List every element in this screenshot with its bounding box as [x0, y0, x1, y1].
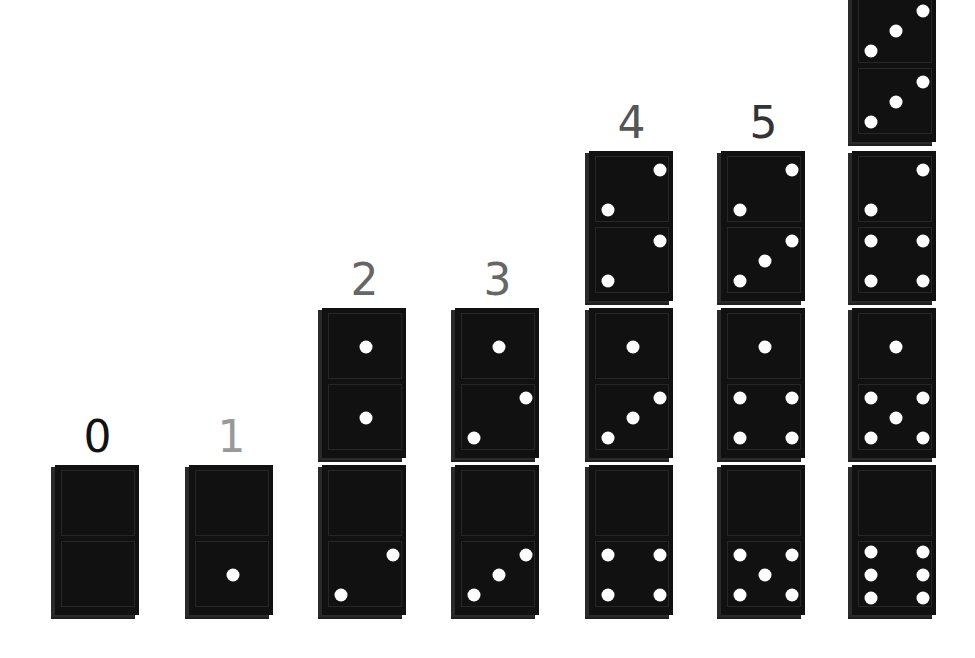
- domino-2-2: [589, 151, 673, 301]
- pip-dot: [759, 255, 772, 268]
- pip-dot: [785, 588, 798, 601]
- column-label-0: 0: [55, 415, 140, 459]
- domino-2-4: [852, 151, 936, 301]
- pip-dot: [601, 203, 614, 216]
- pip-dot: [759, 569, 772, 582]
- pip-dot: [864, 392, 877, 405]
- domino-half-top-blank: [195, 470, 269, 536]
- domino-half-bottom-blank: [61, 541, 135, 607]
- domino-half-bottom-two: [328, 541, 402, 607]
- pip-dot: [493, 341, 506, 354]
- domino-half-bottom-two: [461, 384, 535, 450]
- pip-dot: [785, 235, 798, 248]
- domino-half-bottom-four: [727, 384, 801, 450]
- pip-dot: [890, 341, 903, 354]
- pip-dot: [916, 545, 929, 558]
- pip-dot: [890, 412, 903, 425]
- domino-half-top-one: [595, 313, 669, 379]
- pip-dot: [360, 341, 373, 354]
- pip-dot: [733, 274, 746, 287]
- domino-1-4: [721, 308, 805, 458]
- pip-dot: [360, 412, 373, 425]
- domino-half-top-blank: [595, 470, 669, 536]
- pip-dot: [653, 549, 666, 562]
- pip-dot: [601, 588, 614, 601]
- pip-dot: [627, 412, 640, 425]
- pip-dot: [864, 203, 877, 216]
- pip-dot: [864, 115, 877, 128]
- pip-dot: [601, 431, 614, 444]
- column-label-3: 3: [455, 258, 540, 302]
- domino-0-2: [322, 465, 406, 615]
- pip-dot: [785, 164, 798, 177]
- domino-0-0: [55, 465, 139, 615]
- column-label-2: 2: [322, 258, 407, 302]
- domino-half-bottom-four: [858, 227, 932, 293]
- column-label-5: 5: [721, 101, 806, 145]
- domino-half-bottom-six: [858, 541, 932, 607]
- pip-dot: [653, 588, 666, 601]
- domino-half-top-two: [595, 156, 669, 222]
- pip-dot: [864, 592, 877, 605]
- domino-half-top-blank: [727, 470, 801, 536]
- pip-dot: [864, 235, 877, 248]
- pip-dot: [601, 274, 614, 287]
- pip-dot: [916, 592, 929, 605]
- pip-dot: [916, 431, 929, 444]
- pip-dot: [759, 341, 772, 354]
- pip-dot: [864, 44, 877, 57]
- pip-dot: [916, 5, 929, 18]
- domino-half-top-three: [858, 0, 932, 63]
- domino-half-top-one: [858, 313, 932, 379]
- pip-dot: [653, 235, 666, 248]
- pip-dot: [864, 545, 877, 558]
- domino-half-top-one: [727, 313, 801, 379]
- domino-0-3: [455, 465, 539, 615]
- pip-dot: [653, 392, 666, 405]
- pip-dot: [916, 392, 929, 405]
- pip-dot: [733, 431, 746, 444]
- pip-dot: [733, 549, 746, 562]
- domino-2-3: [721, 151, 805, 301]
- pip-dot: [916, 76, 929, 89]
- domino-half-bottom-two: [595, 227, 669, 293]
- domino-half-top-blank: [61, 470, 135, 536]
- pip-dot: [601, 549, 614, 562]
- pip-dot: [467, 588, 480, 601]
- domino-half-top-one: [328, 313, 402, 379]
- domino-1-1: [322, 308, 406, 458]
- pip-dot: [916, 569, 929, 582]
- pip-dot: [785, 549, 798, 562]
- pip-dot: [467, 431, 480, 444]
- pip-dot: [890, 96, 903, 109]
- pip-dot: [386, 549, 399, 562]
- pip-dot: [864, 274, 877, 287]
- pip-dot: [733, 203, 746, 216]
- domino-half-top-blank: [328, 470, 402, 536]
- domino-half-bottom-three: [461, 541, 535, 607]
- column-label-4: 4: [589, 101, 674, 145]
- domino-half-top-one: [461, 313, 535, 379]
- domino-1-2: [455, 308, 539, 458]
- pip-dot: [627, 341, 640, 354]
- domino-0-5: [721, 465, 805, 615]
- pip-dot: [733, 588, 746, 601]
- pip-dot: [653, 164, 666, 177]
- pip-dot: [916, 164, 929, 177]
- domino-half-bottom-three: [727, 227, 801, 293]
- domino-0-6: [852, 465, 936, 615]
- domino-0-4: [589, 465, 673, 615]
- domino-1-5: [852, 308, 936, 458]
- domino-half-bottom-five: [858, 384, 932, 450]
- pip-dot: [864, 569, 877, 582]
- pip-dot: [864, 431, 877, 444]
- domino-half-bottom-one: [328, 384, 402, 450]
- domino-half-bottom-three: [858, 68, 932, 134]
- domino-half-bottom-one: [195, 541, 269, 607]
- domino-half-bottom-three: [595, 384, 669, 450]
- domino-half-top-two: [727, 156, 801, 222]
- pip-dot: [916, 274, 929, 287]
- domino-3-3: [852, 0, 936, 142]
- column-label-1: 1: [189, 415, 274, 459]
- pip-dot: [519, 549, 532, 562]
